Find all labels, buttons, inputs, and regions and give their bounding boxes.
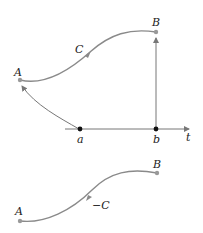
label-tick-a: a xyxy=(77,133,84,146)
point-b-dot xyxy=(154,30,158,34)
label-axis-t: t xyxy=(186,131,191,144)
label-point-b: B xyxy=(151,16,160,29)
label-point-a: A xyxy=(14,205,23,218)
label-curve-c: C xyxy=(75,43,84,56)
map-arrow-a xyxy=(22,86,79,129)
label-curve-minus-c: −C xyxy=(92,199,110,212)
label-point-a: A xyxy=(13,66,22,79)
label-tick-b: b xyxy=(153,133,160,146)
point-a-dot xyxy=(18,219,22,223)
direction-arrow-icon xyxy=(85,51,91,58)
t-axis: a b t xyxy=(65,127,191,146)
curve-orientation-diagram: A B C a b t A B −C xyxy=(0,0,203,233)
label-point-b: B xyxy=(152,158,161,171)
tick-b-dot xyxy=(154,127,159,132)
curve-c: A B C xyxy=(13,16,160,82)
point-b-dot xyxy=(155,171,159,175)
tick-a-dot xyxy=(78,127,83,132)
curve-minus-c: A B −C xyxy=(14,158,161,223)
